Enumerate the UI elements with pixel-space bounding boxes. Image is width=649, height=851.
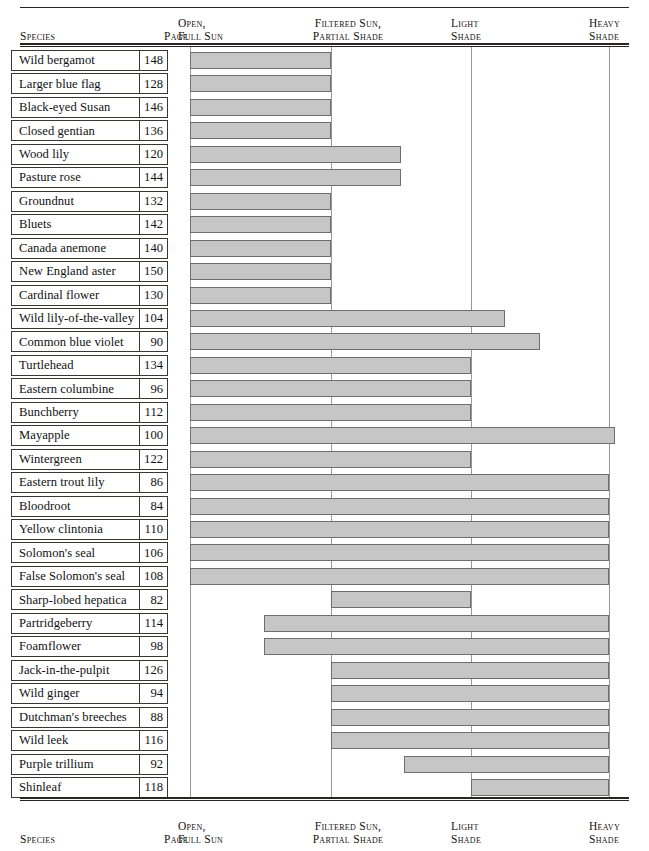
page-number: 82 bbox=[139, 590, 167, 609]
table-row[interactable]: Partridgeberry114 bbox=[0, 613, 649, 634]
species-name-box: Wild ginger94 bbox=[11, 683, 168, 704]
species-name: Eastern columbine bbox=[12, 379, 139, 398]
table-row[interactable]: Bluets142 bbox=[0, 214, 649, 235]
plot-area: Wild bergamot148Larger blue flag128Black… bbox=[0, 47, 649, 797]
table-row[interactable]: Closed gentian136 bbox=[0, 120, 649, 141]
table-row[interactable]: Canada anemone140 bbox=[0, 238, 649, 259]
header-filtered-partial: Filtered Sun, Partial Shade bbox=[278, 17, 418, 42]
table-row[interactable]: Wintergreen122 bbox=[0, 449, 649, 470]
light-range-bar bbox=[331, 591, 471, 608]
table-row[interactable]: Dutchman's breeches88 bbox=[0, 707, 649, 728]
table-row[interactable]: New England aster150 bbox=[0, 261, 649, 282]
species-name-box: Canada anemone140 bbox=[11, 238, 168, 259]
page-number: 134 bbox=[139, 356, 167, 375]
table-row[interactable]: Foamflower98 bbox=[0, 636, 649, 657]
page-number: 144 bbox=[139, 168, 167, 187]
page-number: 118 bbox=[139, 778, 167, 797]
footer-rule-lower bbox=[20, 800, 629, 801]
species-name: Wood lily bbox=[12, 145, 139, 164]
species-name-box: Dutchman's breeches88 bbox=[11, 707, 168, 728]
page-number: 120 bbox=[139, 145, 167, 164]
table-row[interactable]: Groundnut132 bbox=[0, 191, 649, 212]
table-row[interactable]: False Solomon's seal108 bbox=[0, 566, 649, 587]
table-row[interactable]: Solomon's seal106 bbox=[0, 542, 649, 563]
light-range-bar bbox=[190, 122, 331, 139]
species-name-box: New England aster150 bbox=[11, 261, 168, 282]
species-name-box: Mayapple100 bbox=[11, 425, 168, 446]
page-number: 136 bbox=[139, 121, 167, 140]
light-range-bar bbox=[404, 756, 609, 773]
page-number: 148 bbox=[139, 51, 167, 70]
header-species: Species bbox=[20, 30, 55, 43]
light-range-bar bbox=[190, 333, 540, 350]
species-name-box: Eastern trout lily86 bbox=[11, 472, 168, 493]
header-open-full-sun: Open, Full Sun bbox=[178, 17, 278, 42]
species-name-box: Cardinal flower130 bbox=[11, 285, 168, 306]
light-range-bar bbox=[190, 357, 471, 374]
table-row[interactable]: Bloodroot84 bbox=[0, 496, 649, 517]
light-range-bar bbox=[190, 568, 609, 585]
species-name-box: Wild lily-of-the-valley104 bbox=[11, 308, 168, 329]
species-name-box: Eastern columbine96 bbox=[11, 378, 168, 399]
table-row[interactable]: Black-eyed Susan146 bbox=[0, 97, 649, 118]
table-row[interactable]: Common blue violet90 bbox=[0, 331, 649, 352]
table-row[interactable]: Wild ginger94 bbox=[0, 683, 649, 704]
page-number: 132 bbox=[139, 192, 167, 211]
page-number: 90 bbox=[139, 332, 167, 351]
table-row[interactable]: Eastern columbine96 bbox=[0, 378, 649, 399]
light-range-bar bbox=[190, 99, 331, 116]
species-name-box: Jack-in-the-pulpit126 bbox=[11, 660, 168, 681]
species-name: Wild lily-of-the-valley bbox=[12, 309, 139, 328]
species-name: False Solomon's seal bbox=[12, 567, 139, 586]
table-row[interactable]: Larger blue flag128 bbox=[0, 73, 649, 94]
page-number: 110 bbox=[139, 520, 167, 539]
species-name: Bloodroot bbox=[12, 497, 139, 516]
table-row[interactable]: Purple trillium92 bbox=[0, 754, 649, 775]
species-name: Turtlehead bbox=[12, 356, 139, 375]
species-name: Wintergreen bbox=[12, 450, 139, 469]
species-name-box: Purple trillium92 bbox=[11, 754, 168, 775]
species-name-box: Larger blue flag128 bbox=[11, 73, 168, 94]
species-name: Foamflower bbox=[12, 637, 139, 656]
light-range-bar bbox=[190, 380, 471, 397]
table-row[interactable]: Pasture rose144 bbox=[0, 167, 649, 188]
page-number: 88 bbox=[139, 708, 167, 727]
table-row[interactable]: Jack-in-the-pulpit126 bbox=[0, 660, 649, 681]
table-row[interactable]: Wild leek116 bbox=[0, 730, 649, 751]
footer-species: Species bbox=[20, 833, 55, 846]
table-row[interactable]: Wild lily-of-the-valley104 bbox=[0, 308, 649, 329]
table-row[interactable]: Shinleaf118 bbox=[0, 777, 649, 798]
page-number: 122 bbox=[139, 450, 167, 469]
table-row[interactable]: Yellow clintonia110 bbox=[0, 519, 649, 540]
light-range-bar bbox=[190, 263, 331, 280]
page-number: 150 bbox=[139, 262, 167, 281]
light-range-bar bbox=[190, 310, 505, 327]
light-range-bar bbox=[331, 732, 609, 749]
table-row[interactable]: Mayapple100 bbox=[0, 425, 649, 446]
table-row[interactable]: Wood lily120 bbox=[0, 144, 649, 165]
light-range-bar bbox=[190, 75, 331, 92]
page-number: 106 bbox=[139, 543, 167, 562]
species-name: Partridgeberry bbox=[12, 614, 139, 633]
light-requirements-chart: Species Page Open, Full Sun Filtered Sun… bbox=[0, 0, 649, 851]
table-row[interactable]: Wild bergamot148 bbox=[0, 50, 649, 71]
light-range-bar bbox=[331, 662, 609, 679]
table-row[interactable]: Bunchberry112 bbox=[0, 402, 649, 423]
page-number: 140 bbox=[139, 239, 167, 258]
table-row[interactable]: Turtlehead134 bbox=[0, 355, 649, 376]
table-row[interactable]: Eastern trout lily86 bbox=[0, 472, 649, 493]
table-row[interactable]: Sharp-lobed hepatica82 bbox=[0, 589, 649, 610]
table-row[interactable]: Cardinal flower130 bbox=[0, 285, 649, 306]
page-number: 94 bbox=[139, 684, 167, 703]
footer-open-full-sun: Open, Full Sun bbox=[178, 820, 278, 845]
species-name: Bluets bbox=[12, 215, 139, 234]
species-name-box: Turtlehead134 bbox=[11, 355, 168, 376]
species-name-box: Closed gentian136 bbox=[11, 120, 168, 141]
species-name: Common blue violet bbox=[12, 332, 139, 351]
species-name: Cardinal flower bbox=[12, 286, 139, 305]
header-light-shade: Light Shade bbox=[451, 17, 511, 42]
species-name-box: Solomon's seal106 bbox=[11, 542, 168, 563]
light-range-bar bbox=[190, 146, 401, 163]
light-range-bar bbox=[190, 240, 331, 257]
species-name: Yellow clintonia bbox=[12, 520, 139, 539]
